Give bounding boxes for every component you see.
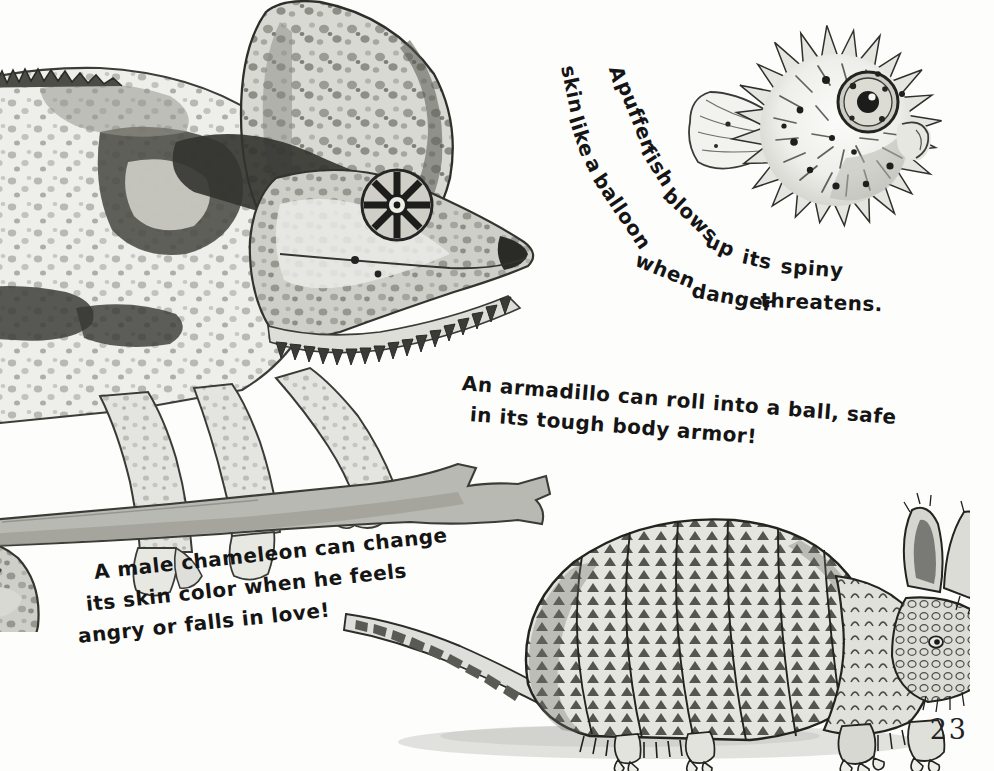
chameleon-eye-detail <box>362 170 432 240</box>
caption-word: when <box>632 248 699 294</box>
caption-word: danger <box>690 278 776 316</box>
caption-word: threatens. <box>760 288 883 316</box>
illustrated-book-page: A puffer fish blows up its spiny skin li… <box>0 0 994 771</box>
caption-word: its <box>740 245 774 275</box>
caption-word: spiny <box>780 254 844 282</box>
caption-word: puffer <box>612 77 661 153</box>
caption-word: a <box>580 153 608 176</box>
caption-word: fish <box>636 141 680 191</box>
caption-word: A <box>604 63 631 85</box>
caption-word: balloon <box>588 169 656 254</box>
armadillo-illustration <box>330 490 970 771</box>
page-number: 23 <box>930 714 968 745</box>
puffer-fish-illustration <box>676 18 976 248</box>
puffer-eye-detail <box>838 72 898 132</box>
